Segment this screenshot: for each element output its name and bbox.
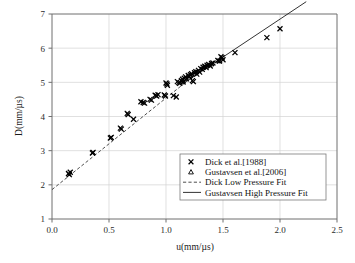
y-tick-label: 4	[41, 112, 46, 122]
chart-figure: 0.00.51.01.52.02.5 1234567 u(mm/µs) D(mm…	[0, 0, 355, 263]
chart-plot-area: 0.00.51.01.52.02.5 1234567 u(mm/µs) D(mm…	[0, 0, 355, 263]
y-tick-label: 2	[41, 180, 46, 190]
x-tick-label: 1.0	[160, 225, 172, 235]
y-tick-label: 3	[41, 146, 46, 156]
chart-background	[0, 0, 355, 263]
x-tick-label: 2.5	[331, 225, 343, 235]
y-tick-label: 7	[41, 9, 46, 19]
chart-legend: Dick et al.[1988]Gustavsen et al.[2006]D…	[180, 154, 326, 200]
x-tick-label: 1.5	[217, 225, 229, 235]
x-tick-label: 0.5	[103, 225, 115, 235]
legend-item-label: Dick et al.[1988]	[205, 157, 266, 167]
x-tick-label: 0.0	[46, 225, 58, 235]
y-tick-label: 6	[41, 44, 46, 54]
legend-item-label: Gustavsen High Pressure Fit	[205, 188, 308, 198]
x-axis-title: u(mm/µs)	[176, 242, 214, 253]
y-tick-label: 5	[41, 78, 46, 88]
legend-item-label: Dick Low Pressure Fit	[205, 177, 287, 187]
legend-item-label: Gustavsen et al.[2006]	[205, 167, 286, 177]
x-tick-label: 2.0	[274, 225, 286, 235]
y-tick-label: 1	[41, 214, 46, 224]
y-axis-title: D(mm/µs)	[14, 96, 25, 136]
